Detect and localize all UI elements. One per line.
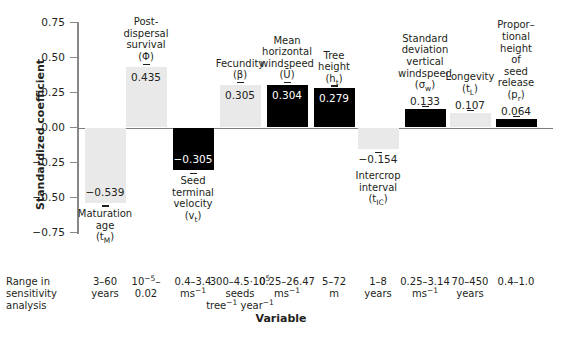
y-tick-label: 0.25 [21,86,65,98]
error-bar-mean-horizontal-windspeed [284,82,291,83]
y-tick-mark [70,162,77,164]
bar-sd-vertical-windspeed [405,109,446,128]
category-label-line: Intercrop [342,170,414,182]
category-label-line: height [298,61,370,73]
bar-value-maturation-age: −0.539 [73,186,137,198]
y-tick-mark [70,127,77,129]
error-bar-seed-terminal-velocity [190,173,197,174]
category-symbol: (tIC) [342,193,414,205]
category-label-line: seed [480,66,552,78]
y-tick-label: 0.50 [21,51,65,63]
category-symbol: (Φ) [110,51,182,63]
bar-value-seed-terminal-velocity: −0.305 [161,153,225,165]
category-symbol: (tM) [69,231,141,243]
bar-proportional-height-seed-release [496,119,537,128]
category-label-line: velocity [157,198,229,210]
category-label-post-dispersal-survival: Post-dispersalsurvival(Φ) [110,16,182,62]
category-label-line: Mean [251,35,323,47]
category-label-line: Seed [157,175,229,187]
chart-figure: Standardized coefficient 0.750.500.250.0… [0,0,562,341]
bar-value-intercrop-interval: −0.154 [346,153,410,165]
category-label-tree-height: Treeheight(ht) [298,50,370,85]
y-tick-label: −0.50 [21,191,65,203]
error-bar-fecundity [237,82,244,83]
y-tick-label: −0.75 [21,226,65,238]
category-label-seed-terminal-velocity: Seedterminalvelocity(vt) [157,175,229,221]
range-header-line: Range in [6,276,76,288]
category-symbol: (pr) [480,89,552,101]
category-label-line: deviation [389,44,461,56]
bar-value-tree-height: 0.279 [302,92,366,104]
range-header-line: analysis [6,300,76,312]
error-bar-maturation-age [102,205,109,206]
zero-baseline [77,128,553,130]
category-label-line: survival [110,39,182,51]
category-label-line: Propor– [480,19,552,31]
category-label-line: terminal [157,187,229,199]
y-tick-mark [70,92,77,94]
category-label-line: Tree [298,50,370,62]
y-tick-label: 0.75 [21,16,65,28]
category-label-intercrop-interval: Intercropinterval(tIC) [342,170,414,205]
bar-intercrop-interval [358,128,399,150]
category-label-line: age [69,220,141,232]
category-label-line: of [480,54,552,66]
y-tick-label: 0.00 [21,121,65,133]
error-bar-post-dispersal-survival [143,64,150,65]
category-label-line: release [480,77,552,89]
bar-value-post-dispersal-survival: 0.435 [114,71,178,83]
category-label-line: Standard [389,33,461,45]
category-label-line: dispersal [110,28,182,40]
category-symbol: (ht) [298,73,370,85]
y-tick-mark [70,57,77,59]
category-symbol: (vt) [157,210,229,222]
y-axis-title: Standardized coefficient [34,35,47,235]
range-cell-proportional-height-seed-release: 0.4–1.0 [478,276,554,288]
category-label-line: Post- [110,16,182,28]
y-tick-mark [70,22,77,24]
x-axis-title: Variable [0,312,562,325]
category-label-line: Maturation [69,208,141,220]
category-label-line: tional [480,31,552,43]
category-label-maturation-age: Maturationage(tM) [69,208,141,243]
bar-value-proportional-height-seed-release: 0.064 [484,105,548,117]
category-label-line: height [480,43,552,55]
range-row-header: Range insensitivityanalysis [6,276,76,312]
category-label-line: vertical [389,56,461,68]
range-header-line: sensitivity [6,288,76,300]
y-tick-label: −0.25 [21,156,65,168]
category-label-line: interval [342,182,414,194]
category-label-proportional-height-seed-release: Propor–tionalheightofseedrelease(pr) [480,19,552,100]
